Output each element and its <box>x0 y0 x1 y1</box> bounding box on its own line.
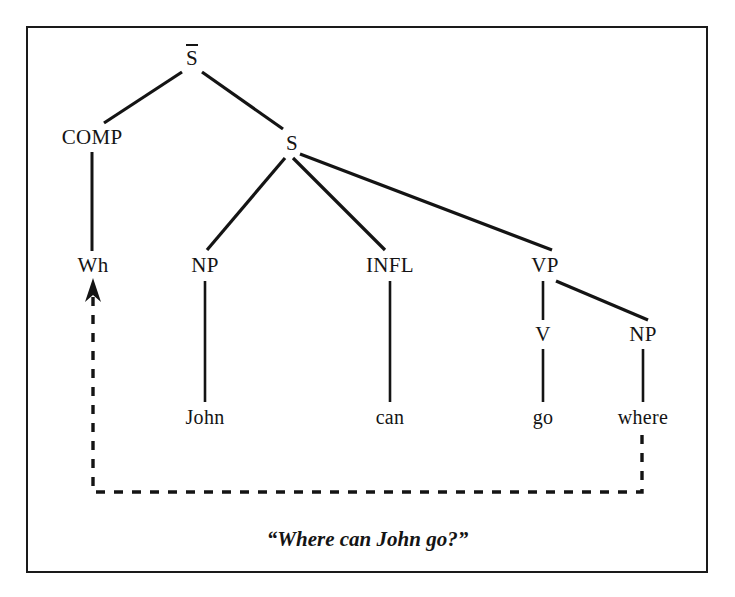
node-s-bar-label: S <box>186 45 198 71</box>
node-infl: INFL <box>366 253 414 278</box>
edge-vp-np <box>556 281 648 320</box>
terminal-go: go <box>533 406 554 429</box>
movement-path <box>93 296 642 492</box>
node-np-object: NP <box>629 322 656 347</box>
terminal-where: where <box>618 406 668 429</box>
node-v: V <box>535 322 550 347</box>
edge-sbar-s <box>202 72 283 129</box>
node-np-subject: NP <box>191 253 218 278</box>
edge-s-infl <box>293 158 385 250</box>
diagram-page: S COMP S Wh NP INFL VP V NP John can go … <box>0 0 735 597</box>
syntax-tree-lines <box>0 0 735 597</box>
node-wh: Wh <box>78 253 109 278</box>
node-s: S <box>286 131 298 156</box>
edge-sbar-comp <box>104 72 182 123</box>
node-s-bar: S <box>186 45 198 71</box>
wh-movement-arrow <box>93 296 642 492</box>
terminal-john: John <box>186 406 225 429</box>
node-vp: VP <box>531 253 558 278</box>
sentence-caption: “Where can John go?” <box>267 527 468 552</box>
terminal-can: can <box>376 406 405 429</box>
edge-s-np <box>207 158 285 250</box>
node-comp: COMP <box>62 125 123 150</box>
